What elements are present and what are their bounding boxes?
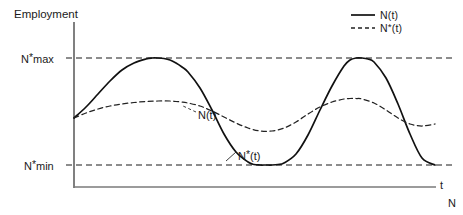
annotation-leader-n-star-of-t: [226, 152, 236, 161]
y-tick-label-nmax-prefix: N: [21, 53, 29, 65]
legend-label-n-of-t-suffix: (t): [388, 9, 399, 21]
y-tick-label-nmax-suffix: max: [33, 53, 54, 65]
annotation-n-star-suffix: (t): [250, 150, 260, 162]
y-axis-title: Employment: [14, 9, 78, 21]
y-tick-label-nmin-prefix: N: [24, 160, 32, 172]
annotation-n-of-t: N(t): [198, 110, 216, 121]
legend-label-n-star-of-t: N*(t): [380, 21, 402, 34]
annotation-n-star-prefix: N: [238, 150, 246, 162]
legend-swatch-solid: [350, 10, 376, 20]
legend-item-n-star-of-t: N*(t): [350, 21, 455, 34]
n-axis-title: N: [448, 198, 456, 209]
y-tick-label-nmin: N*min: [24, 160, 54, 172]
annotation-leader-n-of-t: [183, 106, 196, 112]
legend-label-n-of-t-prefix: N: [380, 9, 388, 21]
y-tick-label-nmin-suffix: min: [36, 160, 54, 172]
x-axis-title: t: [440, 180, 443, 191]
legend-swatch-dashed: [350, 23, 376, 33]
chart-legend: N(t) N*(t): [350, 8, 455, 34]
legend-label-n-of-t: N(t): [380, 8, 398, 21]
series-line-n-star-of-t: [74, 98, 435, 131]
legend-item-n-of-t: N(t): [350, 8, 455, 21]
employment-dynamics-chart: Employment N*max N*min t N N(t) N*(t) N(…: [0, 0, 463, 215]
legend-label-n-star-suffix: (t): [392, 22, 403, 34]
y-tick-label-nmax: N*max: [21, 53, 54, 65]
annotation-n-star-of-t: N*(t): [238, 150, 260, 162]
legend-label-n-star-prefix: N: [380, 22, 388, 34]
